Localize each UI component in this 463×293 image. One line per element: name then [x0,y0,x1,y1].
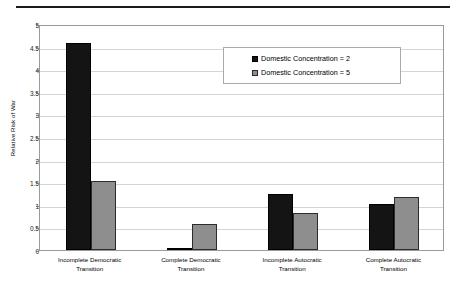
x-tick-label-2: Incomplete AutocraticTransition [242,256,343,273]
bar-chart-figure: Relative Risk of War 00.511.522.533.544.… [0,0,463,293]
x-tick-label-line: Incomplete Democratic [58,256,121,263]
legend-label-series-5: Domestic Concentration = 5 [261,69,350,77]
bar-series-2-group-0[interactable] [66,43,91,250]
bar-series-5-group-0[interactable] [91,181,116,250]
x-tick-label-line: Transition [140,265,241,274]
y-tick-mark [36,251,39,252]
legend-swatch-icon-series-2 [252,56,258,62]
x-tick-label-3: Complete AutocraticTransition [343,256,444,273]
chart-legend: Domestic Concentration = 2 Domestic Conc… [223,47,401,84]
x-tick-label-line: Transition [39,265,140,274]
bar-series-5-group-2[interactable] [293,213,318,250]
x-tick-label-line: Transition [242,265,343,274]
x-tick-label-0: Incomplete DemocraticTransition [39,256,140,273]
legend-swatch-icon-series-5 [252,70,258,76]
x-tick-label-line: Complete Autocratic [366,256,421,263]
legend-entry-1[interactable]: Domestic Concentration = 5 [224,66,400,80]
legend-entry-0[interactable]: Domestic Concentration = 2 [224,52,400,66]
legend-label-series-2: Domestic Concentration = 2 [261,55,350,63]
bar-series-2-group-3[interactable] [369,204,394,250]
x-tick-label-line: Complete Democratic [161,256,221,263]
bar-series-2-group-1[interactable] [167,248,192,250]
x-tick-label-line: Transition [343,265,444,274]
bar-series-5-group-1[interactable] [192,224,217,250]
y-axis-title: Relative Risk of War [9,100,20,156]
bar-series-2-group-2[interactable] [268,194,293,250]
bar-series-5-group-3[interactable] [394,197,419,250]
x-tick-label-1: Complete DemocraticTransition [140,256,241,273]
x-tick-label-line: Incomplete Autocratic [263,256,322,263]
